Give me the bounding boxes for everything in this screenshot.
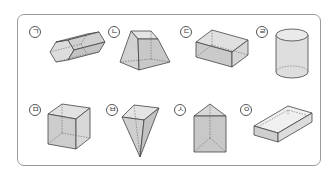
cylinder-shape bbox=[274, 26, 310, 82]
label-digeut: ㄷ bbox=[180, 26, 192, 38]
triangular-prism-shape bbox=[192, 102, 230, 154]
rectangular-prism-shape bbox=[194, 28, 250, 68]
label-bieup: ㅂ bbox=[106, 104, 118, 116]
cube-shape bbox=[46, 102, 94, 152]
label-siot: ㅅ bbox=[174, 104, 186, 116]
inverted-pyramid-shape bbox=[120, 102, 162, 158]
label-giyeok: ㄱ bbox=[29, 26, 41, 38]
label-mieum: ㅁ bbox=[29, 104, 41, 116]
square-frustum-shape bbox=[118, 26, 174, 72]
label-ieung: ㅇ bbox=[240, 104, 252, 116]
open-box-shape bbox=[252, 104, 314, 144]
hexagonal-prism-shape bbox=[48, 28, 108, 68]
label-rieul: ㄹ bbox=[256, 26, 268, 38]
